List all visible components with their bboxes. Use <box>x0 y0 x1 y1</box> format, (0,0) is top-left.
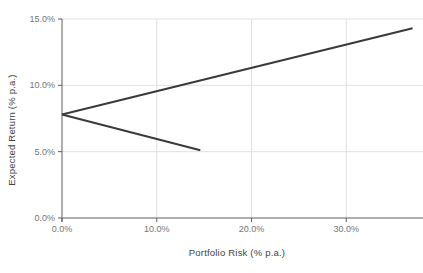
chart: 0.0%5.0%10.0%15.0%0.0%10.0%20.0%30.0% Ex… <box>0 0 423 273</box>
x-tick-label: 30.0% <box>333 224 359 234</box>
y-tick-label: 15.0% <box>29 14 55 24</box>
y-tick-label: 10.0% <box>29 80 55 90</box>
y-axis-title: Expected Return (% p.a.) <box>6 74 17 185</box>
axes <box>58 19 423 222</box>
y-tick-label: 5.0% <box>34 147 55 157</box>
series-frontier-lower-segment <box>62 115 200 151</box>
x-tick-label: 20.0% <box>239 224 265 234</box>
x-tick-label: 10.0% <box>144 224 170 234</box>
x-tick-label: 0.0% <box>52 224 73 234</box>
chart-plot-area: 0.0%5.0%10.0%15.0%0.0%10.0%20.0%30.0% <box>0 0 423 273</box>
gridlines <box>62 19 423 218</box>
tick-labels: 0.0%5.0%10.0%15.0%0.0%10.0%20.0%30.0% <box>29 14 359 234</box>
series-frontier-upper-segment <box>62 28 413 114</box>
y-tick-label: 0.0% <box>34 213 55 223</box>
x-axis-title: Portfolio Risk (% p.a.) <box>189 247 285 258</box>
